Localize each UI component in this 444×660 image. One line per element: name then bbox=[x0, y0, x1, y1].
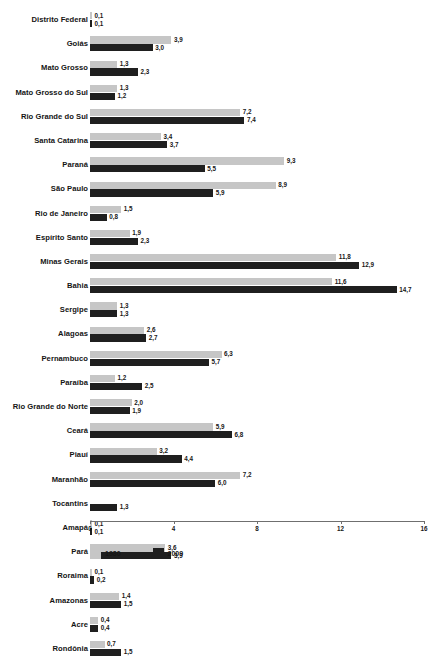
bar-value-label: 14,7 bbox=[399, 286, 411, 293]
bar-2009 bbox=[90, 117, 244, 124]
category-label: Goiás bbox=[0, 35, 88, 53]
row-bars: 8,95,9 bbox=[90, 177, 444, 201]
row-bars: 1,31,2 bbox=[90, 81, 444, 105]
bar-value-label: 6,3 bbox=[224, 350, 233, 357]
bar-value-label: 0,1 bbox=[95, 568, 104, 575]
axis-tick bbox=[341, 521, 342, 524]
row-bars: 2,01,9 bbox=[90, 395, 444, 419]
bar-value-label: 6,0 bbox=[218, 479, 227, 486]
chart-row: Rio Grande do Sul7,27,4 bbox=[0, 105, 444, 129]
category-label: Roraima bbox=[0, 567, 88, 585]
category-label: Alagoas bbox=[0, 325, 88, 343]
category-label: Espírito Santo bbox=[0, 229, 88, 247]
chart-row: Roraima0,10,2 bbox=[0, 564, 444, 588]
bar-value-label: 1,3 bbox=[120, 302, 129, 309]
chart-legend: 19802009 bbox=[90, 548, 209, 559]
chart-row: Bahia11,614,7 bbox=[0, 274, 444, 298]
bar-2009 bbox=[90, 44, 153, 51]
bar-value-label: 5,9 bbox=[216, 189, 225, 196]
category-label: Mato Grosso do Sul bbox=[0, 84, 88, 102]
chart-row: Paraíba1,22,5 bbox=[0, 371, 444, 395]
bar-1980 bbox=[90, 85, 117, 92]
bar-1980 bbox=[90, 448, 157, 455]
bar-value-label: 2,0 bbox=[134, 399, 143, 406]
bar-value-label: 0,4 bbox=[101, 616, 110, 623]
bar-2009 bbox=[90, 601, 121, 608]
chart-row: Rondônia0,71,5 bbox=[0, 637, 444, 660]
bar-2009 bbox=[90, 576, 94, 583]
bar-1980 bbox=[90, 12, 92, 19]
chart-row: Paraná9,35,5 bbox=[0, 153, 444, 177]
axis-tick-label: 0 bbox=[88, 525, 92, 532]
bar-1980 bbox=[90, 109, 240, 116]
chart-row: Mato Grosso do Sul1,31,2 bbox=[0, 81, 444, 105]
chart-row: Pernambuco6,35,7 bbox=[0, 347, 444, 371]
bar-1980 bbox=[90, 278, 332, 285]
category-label: Amazonas bbox=[0, 592, 88, 610]
bar-2009 bbox=[90, 310, 117, 317]
bar-2009 bbox=[90, 238, 138, 245]
bar-2009 bbox=[90, 141, 167, 148]
bar-2009 bbox=[90, 359, 209, 366]
category-label: Sergipe bbox=[0, 301, 88, 319]
bar-value-label: 7,2 bbox=[243, 108, 252, 115]
row-bars: 7,27,4 bbox=[90, 105, 444, 129]
bar-value-label: 2,5 bbox=[145, 382, 154, 389]
bar-value-label: 0,1 bbox=[95, 12, 104, 19]
category-label: Rio Grande do Norte bbox=[0, 398, 88, 416]
bar-value-label: 3,7 bbox=[170, 141, 179, 148]
category-label: Bahia bbox=[0, 277, 88, 295]
row-bars: 0,10,2 bbox=[90, 564, 444, 588]
chart-row: Minas Gerais11,812,9 bbox=[0, 250, 444, 274]
category-label: Paraíba bbox=[0, 374, 88, 392]
row-bars: 1,3 bbox=[90, 492, 444, 516]
row-bars: 2,62,7 bbox=[90, 322, 444, 346]
row-bars: 1,92,3 bbox=[90, 226, 444, 250]
bar-2009 bbox=[90, 214, 107, 221]
bar-2009 bbox=[90, 625, 98, 632]
bar-value-label: 1,5 bbox=[124, 648, 133, 655]
bar-value-label: 11,8 bbox=[339, 253, 351, 260]
bar-1980 bbox=[90, 254, 336, 261]
bar-value-label: 7,2 bbox=[243, 471, 252, 478]
bar-1980 bbox=[90, 206, 121, 213]
chart-row: Distrito Federal0,10,1 bbox=[0, 8, 444, 32]
bar-value-label: 0,4 bbox=[101, 624, 110, 631]
bar-value-label: 1,3 bbox=[120, 503, 129, 510]
bar-value-label: 1,3 bbox=[120, 310, 129, 317]
axis-tick bbox=[257, 521, 258, 524]
bar-value-label: 0,1 bbox=[95, 528, 104, 535]
row-bars: 1,32,3 bbox=[90, 56, 444, 80]
bar-2009 bbox=[90, 649, 121, 656]
legend-item-1980[interactable]: 1980 bbox=[90, 548, 121, 559]
bar-1980 bbox=[90, 327, 144, 334]
row-bars: 0,40,4 bbox=[90, 613, 444, 637]
bar-1980 bbox=[90, 302, 117, 309]
bar-1980 bbox=[90, 157, 284, 164]
row-bars: 0,10,1 bbox=[90, 516, 444, 540]
axis-tick bbox=[90, 521, 91, 524]
category-label: Piauí bbox=[0, 446, 88, 464]
bar-value-label: 1,5 bbox=[124, 205, 133, 212]
category-label: Rio Grande do Sul bbox=[0, 108, 88, 126]
bar-2009 bbox=[90, 431, 232, 438]
bar-value-label: 1,4 bbox=[122, 592, 131, 599]
category-label: Pará bbox=[0, 543, 88, 561]
category-label: Maranhão bbox=[0, 471, 88, 489]
bar-2009 bbox=[90, 262, 359, 269]
category-label: São Paulo bbox=[0, 180, 88, 198]
bar-value-label: 11,6 bbox=[335, 278, 347, 285]
bar-1980 bbox=[90, 36, 171, 43]
bar-value-label: 0,8 bbox=[109, 213, 118, 220]
bar-value-label: 0,2 bbox=[97, 576, 106, 583]
bar-value-label: 7,4 bbox=[247, 116, 256, 123]
legend-item-2009[interactable]: 2009 bbox=[153, 548, 184, 559]
bar-2009 bbox=[90, 165, 205, 172]
bar-value-label: 1,3 bbox=[120, 84, 129, 91]
bar-value-label: 8,9 bbox=[278, 181, 287, 188]
bar-2009 bbox=[90, 480, 215, 487]
bar-1980 bbox=[90, 617, 98, 624]
bar-value-label: 0,7 bbox=[107, 640, 116, 647]
bar-1980 bbox=[90, 61, 117, 68]
row-bars: 3,93,0 bbox=[90, 32, 444, 56]
